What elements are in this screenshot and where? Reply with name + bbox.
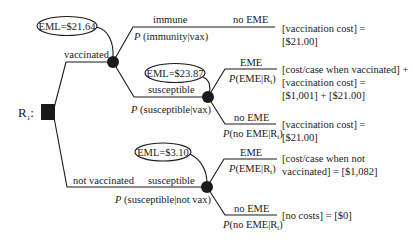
decision-node-square-icon bbox=[41, 104, 55, 120]
eml-connector-2 bbox=[203, 77, 210, 93]
payoff-eme-vax-line1: [cost/case when vaccinated] + bbox=[282, 64, 408, 75]
label-immune: immune bbox=[153, 14, 188, 25]
label-vaccinated: vaccinated bbox=[64, 49, 110, 60]
eml-vaccinated-text: EML=$21.64 bbox=[39, 21, 97, 32]
payoff-immune-line2: [$21.00] bbox=[282, 36, 318, 47]
prob-immunity-vax: P (immunity|vax) bbox=[133, 31, 209, 43]
decision-tree-diagram: EML=$21.64 EML=$23.87 EML=$3.10 R1: vacc… bbox=[0, 0, 413, 242]
payoff-no-eme-vax-line2: [$21.00] bbox=[282, 132, 318, 143]
chance-node-susceptible-vax-icon bbox=[202, 91, 214, 103]
payoff-no-eme-novax-line1: [no costs] = [$0] bbox=[282, 210, 352, 221]
decision-node-label: R1: bbox=[18, 105, 34, 122]
branch-vaccinated-line bbox=[53, 62, 113, 112]
prob-susceptible-vax: P (susceptible|vax) bbox=[130, 104, 211, 116]
prob-no-eme-vax: P(no EME|Ri) bbox=[222, 128, 283, 141]
chance-node-not-vaccinated-icon bbox=[201, 181, 213, 193]
outcome-no-eme-immune: no EME bbox=[233, 14, 268, 25]
payoff-no-eme-vax-line1: [vaccination cost] = bbox=[282, 119, 366, 130]
payoff-eme-novax-line2: vaccinated] = [$1,082] bbox=[282, 166, 377, 177]
eml-not-vaccinated-text: EML=$3.10 bbox=[137, 147, 189, 158]
prob-susceptible-novax: P (susceptible|not vax) bbox=[114, 194, 212, 206]
prob-eme-novax: P(EME|Ri) bbox=[228, 163, 276, 176]
prob-eme-vax: P(EME|Ri) bbox=[228, 73, 276, 86]
label-no-eme-novax: no EME bbox=[234, 203, 269, 214]
payoff-eme-vax-line2: [vaccination cost] = bbox=[282, 77, 366, 88]
label-susceptible-novax: susceptible bbox=[148, 175, 195, 186]
prob-no-eme-novax: P(no EME|Ri) bbox=[222, 219, 283, 232]
label-no-eme-vax: no EME bbox=[234, 112, 269, 123]
payoff-immune-line1: [vaccination cost] = bbox=[282, 23, 366, 34]
label-eme-vax: EME bbox=[240, 57, 262, 68]
eml-susceptible-vax-text: EML=$23.87 bbox=[147, 68, 204, 79]
label-not-vaccinated: not vaccinated bbox=[73, 175, 135, 186]
payoff-eme-novax-line1: [cost/case when not bbox=[282, 153, 365, 164]
payoff-eme-vax-line3: [$1,001] + [$21.00] bbox=[282, 90, 365, 101]
label-susceptible-vax: susceptible bbox=[148, 84, 195, 95]
label-eme-novax: EME bbox=[240, 147, 262, 158]
